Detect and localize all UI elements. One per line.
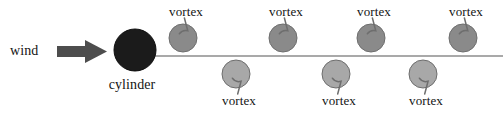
vortex-label-top-1: vortex [269,5,303,18]
vortex-top-3 [449,18,477,52]
vortex-disc [222,60,250,88]
vortex-bottom-2 [409,60,437,94]
vortex-disc [269,24,297,52]
vortex-top-2 [357,18,385,52]
vortex-disc [169,24,197,52]
vortex-disc [449,24,477,52]
wind-arrow-head [85,40,107,63]
vortex-disc [322,60,350,88]
vortex-top-0 [169,18,197,52]
cylinder-shape [114,29,156,71]
vortex-shedding-diagram: wind cylinder vortexvortexvortexvortexvo… [0,0,503,115]
vortex-disc [409,60,437,88]
vortex-bottom-0 [222,60,250,94]
vortex-label-bottom-1: vortex [322,94,356,107]
vortex-label-top-0: vortex [169,5,203,18]
vortex-bottom-1 [322,60,350,94]
vortex-label-top-3: vortex [449,5,483,18]
vortex-label-bottom-2: vortex [409,94,443,107]
wind-arrow-shaft [57,46,87,57]
vortex-label-bottom-0: vortex [222,94,256,107]
wind-label: wind [10,44,38,58]
cylinder-label: cylinder [109,78,156,92]
vortex-disc [357,24,385,52]
vortex-label-top-2: vortex [357,5,391,18]
vortex-top-1 [269,18,297,52]
